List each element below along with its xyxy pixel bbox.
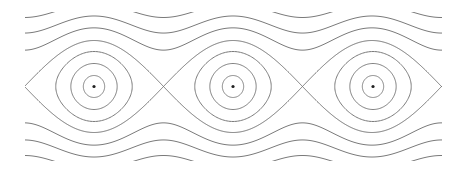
phase-portrait-figure: Phase portrait of the simple pendulum: l…: [0, 0, 468, 171]
equilibrium-points: [92, 85, 374, 88]
lower-open-orbit-1: [23, 123, 444, 145]
lower-open-orbit-3: [23, 156, 444, 170]
equilibrium-point-3: [371, 85, 374, 88]
equilibrium-point-2: [231, 85, 234, 88]
phase-portrait-plot: [0, 0, 468, 171]
upper-open-orbit-1: [23, 28, 444, 50]
equilibrium-point-1: [92, 85, 95, 88]
upper-open-orbit-3: [23, 4, 444, 18]
lower-open-orbit-2: [23, 140, 444, 157]
upper-open-orbit-2: [23, 16, 444, 33]
